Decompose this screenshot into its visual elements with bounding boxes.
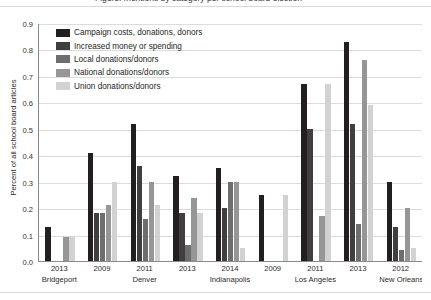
bar bbox=[405, 208, 410, 261]
legend-swatch-union bbox=[56, 82, 70, 90]
y-tick-0.4: 0.4 bbox=[22, 152, 33, 161]
bar bbox=[283, 195, 288, 261]
bar bbox=[155, 205, 160, 261]
legend-item-local: Local donations/donors bbox=[56, 53, 202, 66]
bar bbox=[185, 245, 190, 261]
y-tick-0.6: 0.6 bbox=[22, 99, 33, 108]
y-axis-label-wrap: Percent of all school board articles bbox=[0, 24, 14, 262]
legend-item-campaign_costs: Campaign costs, donations, donors bbox=[56, 26, 202, 39]
bar bbox=[94, 213, 99, 261]
top-divider bbox=[0, 6, 431, 7]
y-tick-0.1: 0.1 bbox=[22, 231, 33, 240]
x-group-2013-bridgeport: 2013 bbox=[38, 263, 81, 274]
x-axis: 201320092011201320142009201120132012Brid… bbox=[38, 263, 422, 300]
legend-label-union: Union donations/donors bbox=[74, 82, 161, 91]
x-tick-year: 2013 bbox=[337, 263, 380, 274]
x-city-label-new-orleans: New Orleans bbox=[379, 274, 422, 285]
y-tick-0.9: 0.9 bbox=[22, 20, 33, 29]
x-group-2011-denver: 2011 bbox=[123, 263, 166, 274]
x-city-label-denver: Denver bbox=[81, 274, 209, 285]
bar bbox=[319, 216, 324, 261]
x-city-text: Denver bbox=[81, 274, 209, 285]
bar bbox=[307, 129, 312, 261]
x-city-text: New Orleans bbox=[379, 274, 422, 285]
bar bbox=[112, 182, 117, 261]
x-group-2013-los-angeles: 2013 bbox=[337, 263, 380, 274]
legend-swatch-local bbox=[56, 55, 70, 63]
x-city-text: Indianapolis bbox=[209, 274, 252, 285]
bar bbox=[69, 237, 74, 261]
x-tick-year: 2014 bbox=[209, 263, 252, 274]
y-tick-0.0: 0.0 bbox=[22, 258, 33, 267]
x-tick-year: 2011 bbox=[123, 263, 166, 274]
bar bbox=[137, 166, 142, 261]
bar bbox=[350, 124, 355, 262]
x-city-label-indianapolis: Indianapolis bbox=[209, 274, 252, 285]
bar bbox=[191, 198, 196, 261]
legend-label-increased_money: Increased money or spending bbox=[74, 42, 182, 51]
x-group-2012-new-orleans: 2012 bbox=[379, 263, 422, 274]
bar bbox=[173, 176, 178, 261]
bar bbox=[301, 84, 306, 261]
x-tick-year: 2009 bbox=[251, 263, 294, 274]
legend: Campaign costs, donations, donorsIncreas… bbox=[56, 26, 202, 93]
legend-label-national: National donations/donors bbox=[74, 68, 169, 77]
bar bbox=[228, 182, 233, 261]
bar bbox=[45, 227, 50, 261]
bar bbox=[259, 195, 264, 261]
bar bbox=[411, 248, 416, 261]
legend-item-union: Union donations/donors bbox=[56, 80, 202, 93]
legend-label-local: Local donations/donors bbox=[74, 55, 159, 64]
bar bbox=[100, 213, 105, 261]
bar bbox=[222, 208, 227, 261]
bar bbox=[399, 250, 404, 261]
x-group-2009-los-angeles: 2009 bbox=[251, 263, 294, 274]
x-tick-year: 2013 bbox=[166, 263, 209, 274]
y-tick-0.3: 0.3 bbox=[22, 178, 33, 187]
chart-title: Figure: mentions by category per school … bbox=[95, 0, 335, 3]
bar bbox=[106, 205, 111, 261]
x-tick-year: 2013 bbox=[38, 263, 81, 274]
legend-label-campaign_costs: Campaign costs, donations, donors bbox=[74, 28, 202, 37]
bar bbox=[149, 182, 154, 261]
x-tick-year: 2009 bbox=[81, 263, 124, 274]
bar bbox=[356, 224, 361, 261]
x-city-label-bridgeport: Bridgeport bbox=[38, 274, 81, 285]
bar bbox=[393, 227, 398, 261]
legend-item-increased_money: Increased money or spending bbox=[56, 39, 202, 52]
bar bbox=[240, 248, 245, 261]
y-tick-0.5: 0.5 bbox=[22, 125, 33, 134]
bar bbox=[63, 237, 68, 261]
legend-swatch-increased_money bbox=[56, 42, 70, 50]
x-city-label-los-angeles: Los Angeles bbox=[251, 274, 379, 285]
x-city-text: Bridgeport bbox=[38, 274, 81, 285]
legend-item-national: National donations/donors bbox=[56, 66, 202, 79]
bar bbox=[131, 124, 136, 262]
bar bbox=[143, 219, 148, 261]
bar bbox=[368, 105, 373, 261]
legend-swatch-national bbox=[56, 69, 70, 77]
bar bbox=[197, 213, 202, 261]
x-tick-year: 2012 bbox=[379, 263, 422, 274]
bar bbox=[234, 182, 239, 261]
bar bbox=[216, 168, 221, 261]
x-group-2011-los-angeles: 2011 bbox=[294, 263, 337, 274]
chart-figure: Figure: mentions by category per school … bbox=[0, 0, 431, 300]
bar bbox=[344, 42, 349, 261]
y-tick-0.8: 0.8 bbox=[22, 46, 33, 55]
y-tick-0.7: 0.7 bbox=[22, 72, 33, 81]
x-city-text: Los Angeles bbox=[251, 274, 379, 285]
x-group-2014-indianapolis: 2014 bbox=[209, 263, 252, 274]
y-tick-0.2: 0.2 bbox=[22, 205, 33, 214]
bar bbox=[179, 213, 184, 261]
bar bbox=[362, 60, 367, 261]
x-group-2009-denver: 2009 bbox=[81, 263, 124, 274]
bar bbox=[325, 84, 330, 261]
bar bbox=[88, 153, 93, 261]
x-group-2013-denver: 2013 bbox=[166, 263, 209, 274]
y-axis-tick-labels: 0.00.10.20.30.40.50.60.70.80.9 bbox=[14, 24, 36, 262]
bar bbox=[387, 182, 392, 261]
x-tick-year: 2011 bbox=[294, 263, 337, 274]
legend-swatch-campaign_costs bbox=[56, 29, 70, 37]
